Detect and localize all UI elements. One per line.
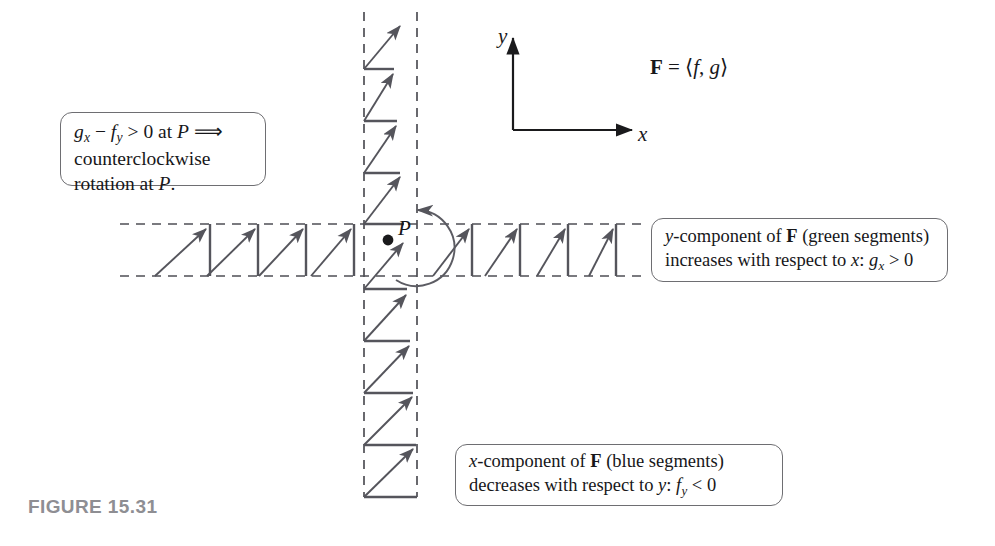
callout-y-line2-post: > 0	[884, 250, 913, 270]
field-vector	[364, 346, 413, 393]
callout-rotation-line3-pre: rotation at	[74, 173, 158, 194]
y-axis-label: y	[498, 24, 507, 49]
formula-comma: ,	[699, 55, 710, 79]
formula-bold-F: F	[650, 55, 663, 79]
vector-field-formula: F = ⟨f, g⟩	[650, 55, 728, 80]
callout-y-component: y-component of F (green segments) increa…	[651, 218, 948, 282]
callout-rotation-line3-P: P	[158, 173, 170, 194]
vertical-strip-vectors	[364, 26, 417, 497]
callout-rotation-f: f	[111, 121, 116, 142]
callout-x-line2-post: < 0	[687, 475, 716, 495]
field-vector	[155, 224, 210, 276]
callout-x-mid: -component of	[477, 451, 590, 471]
field-vector	[364, 26, 400, 69]
field-vector	[485, 224, 520, 276]
callout-rotation: gx − fy > 0 at P ⟹ counterclockwise rota…	[60, 112, 266, 186]
callout-rotation-line1: gx − fy > 0 at P ⟹	[74, 120, 253, 147]
field-vector	[364, 126, 400, 173]
callout-y-line2: increases with respect to x: gx > 0	[665, 249, 935, 275]
callout-rotation-line3: rotation at P.	[74, 172, 253, 197]
callout-y-line2-g: g	[869, 250, 878, 270]
point-p-dot	[383, 235, 394, 246]
callout-rotation-minus: −	[90, 121, 111, 142]
callout-x-post: (blue segments)	[602, 451, 724, 471]
callout-rotation-rest: > 0 at	[123, 121, 177, 142]
callout-y-post: (green segments)	[798, 226, 930, 246]
formula-close-angle: ⟩	[720, 55, 728, 79]
figure-container: y x F = ⟨f, g⟩ P gx − fy > 0 at P ⟹ coun…	[0, 0, 995, 546]
callout-y-line1: y-component of F (green segments)	[665, 225, 935, 249]
callout-x-italic-x: x	[469, 451, 477, 471]
callout-x-line1: x-component of F (blue segments)	[469, 450, 770, 474]
figure-caption: FIGURE 15.31	[28, 496, 157, 518]
horizontal-strip-vectors	[155, 224, 616, 276]
field-vector	[364, 74, 397, 121]
callout-y-italic-y: y	[665, 226, 673, 246]
field-vector	[259, 224, 306, 276]
field-vector	[433, 224, 472, 276]
formula-equals: =	[663, 55, 685, 79]
field-vector	[311, 224, 354, 276]
field-vector	[364, 397, 416, 445]
callout-rotation-P: P	[177, 121, 189, 142]
formula-g: g	[710, 55, 721, 79]
callout-rotation-line2: counterclockwise	[74, 147, 253, 172]
callout-y-mid: -component of	[673, 226, 786, 246]
field-vector	[207, 224, 258, 276]
callout-x-bold-F: F	[590, 451, 601, 471]
point-p-label: P	[398, 216, 411, 241]
field-vector	[364, 295, 410, 341]
coordinate-axes	[513, 38, 632, 130]
callout-x-line2-pre: decreases with respect to	[469, 475, 658, 495]
callout-rotation-line3-post: .	[170, 173, 175, 194]
callout-rotation-g: g	[74, 121, 84, 142]
callout-y-line2-x: x	[851, 250, 859, 270]
field-vector	[589, 224, 616, 276]
callout-y-line2-colon: :	[859, 250, 869, 270]
field-vector	[364, 449, 417, 497]
callout-y-line2-pre: increases with respect to	[665, 250, 851, 270]
callout-y-bold-F: F	[786, 226, 797, 246]
dashed-guides	[120, 12, 641, 497]
callout-x-line2: decreases with respect to y: fy < 0	[469, 474, 770, 500]
field-vector	[537, 224, 568, 276]
callout-x-component: x-component of F (blue segments) decreas…	[455, 444, 783, 506]
callout-x-line2-colon: :	[666, 475, 676, 495]
callout-rotation-implies: ⟹	[189, 121, 223, 142]
x-axis-label: x	[638, 122, 647, 147]
formula-open-angle: ⟨	[685, 55, 693, 79]
